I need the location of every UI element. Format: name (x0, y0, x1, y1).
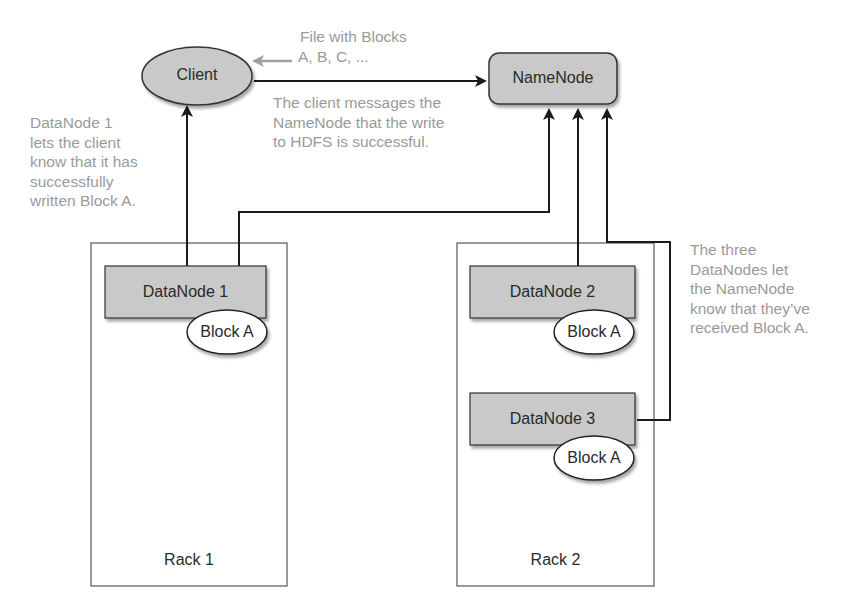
datanode-2-label: DataNode 2 (470, 283, 635, 301)
client-label: Client (142, 66, 252, 84)
annotation-line: know that they’ve (690, 299, 810, 319)
block-a-label-3: Block A (554, 449, 634, 467)
rack-2-label: Rack 2 (457, 551, 654, 569)
annotation-line: The three (690, 240, 810, 260)
annotation-line: NameNode that the write (273, 113, 444, 133)
annotation-line: successfully (30, 172, 138, 192)
annotation-line: DataNode 1 (30, 113, 138, 133)
block-a-label-2: Block A (554, 323, 634, 341)
annotation-line: the NameNode (690, 279, 810, 299)
annotation-line: The client messages the (273, 93, 444, 113)
datanodes-to-namenode-annotation: The three DataNodes let the NameNode kno… (690, 240, 810, 338)
annotation-line: received Block A. (690, 318, 810, 338)
annotation-line: to HDFS is successful. (273, 132, 444, 152)
datanode-1-label: DataNode 1 (105, 283, 266, 301)
annotation-line: written Block A. (30, 191, 138, 211)
annotation-line: DataNodes let (690, 260, 810, 280)
annotation-line: lets the client (30, 133, 138, 153)
annotation-line: A, B, C, ... (298, 47, 407, 67)
datanode-3-label: DataNode 3 (470, 410, 635, 428)
client-to-namenode-annotation: The client messages the NameNode that th… (273, 93, 444, 152)
namenode-label: NameNode (489, 69, 617, 87)
datanode1-to-client-annotation: DataNode 1 lets the client know that it … (30, 113, 138, 211)
file-annotation: File with Blocks A, B, C, ... (300, 27, 407, 66)
rack-1-label: Rack 1 (91, 551, 287, 569)
annotation-line: File with Blocks (300, 27, 407, 47)
block-a-label-1: Block A (187, 323, 267, 341)
annotation-line: know that it has (30, 152, 138, 172)
